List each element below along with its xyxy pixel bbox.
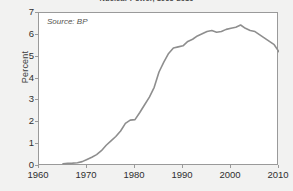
y-axis-tick-5: 5	[12, 50, 34, 61]
x-axis-tick-mark-1990	[182, 165, 183, 168]
y-axis-tick-3: 3	[12, 93, 34, 104]
y-axis-tick-mark-4	[35, 78, 38, 79]
x-axis-tick-mark-1980	[134, 165, 135, 168]
y-axis-tick-6: 6	[12, 28, 34, 39]
source-annotation: Source: BP	[47, 17, 87, 26]
y-axis-tick-4: 4	[12, 72, 34, 83]
y-axis-tick-1: 1	[12, 137, 34, 148]
y-axis-tick-mark-3	[35, 99, 38, 100]
x-axis-tick-1980: 1980	[114, 169, 154, 180]
x-axis-tick-mark-1960	[38, 165, 39, 168]
data-line-svg	[39, 13, 279, 166]
chart-title: Nuclear Power, 1965-2010	[0, 0, 293, 3]
x-axis-tick-1990: 1990	[162, 169, 202, 180]
x-axis-tick-mark-2010	[278, 165, 279, 168]
chart-figure: Nuclear Power, 1965-2010 Source: BP Perc…	[0, 0, 293, 191]
series-line-nuclear-power	[63, 25, 279, 164]
x-axis-tick-1970: 1970	[66, 169, 106, 180]
y-axis-tick-mark-5	[35, 56, 38, 57]
y-axis-tick-mark-2	[35, 121, 38, 122]
x-axis-tick-1960: 1960	[18, 169, 58, 180]
y-axis-tick-mark-7	[35, 12, 38, 13]
y-axis-tick-mark-6	[35, 34, 38, 35]
x-axis-tick-2010: 2010	[258, 169, 293, 180]
x-axis-tick-mark-2000	[230, 165, 231, 168]
y-axis-tick-7: 7	[12, 6, 34, 17]
x-axis-tick-2000: 2000	[210, 169, 250, 180]
plot-area: Source: BP	[38, 12, 278, 165]
x-axis-tick-mark-1970	[86, 165, 87, 168]
y-axis-tick-2: 2	[12, 115, 34, 126]
chart-title-clip: Nuclear Power, 1965-2010	[0, 0, 293, 4]
y-axis-tick-mark-1	[35, 143, 38, 144]
